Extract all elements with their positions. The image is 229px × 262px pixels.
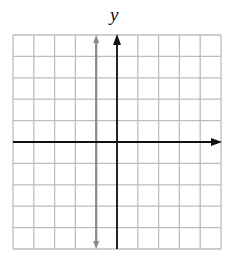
axes xyxy=(13,34,222,249)
coordinate-grid xyxy=(0,0,229,262)
y-axis-label: y xyxy=(110,4,118,26)
